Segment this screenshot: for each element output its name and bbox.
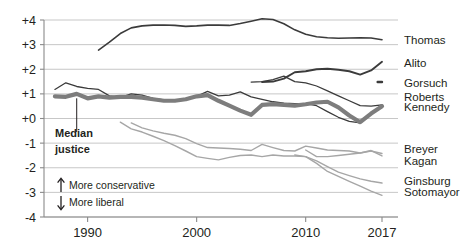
series-label-alito: Alito (404, 57, 426, 69)
y-tick-label: +0 (22, 112, 36, 126)
direction-legend: More conservative More liberal (58, 178, 155, 209)
y-tick-label: +1 (22, 87, 36, 101)
series-label-gorsuch: Gorsuch (404, 77, 447, 89)
y-tick-label: -4 (25, 211, 36, 225)
more-conservative-label: More conservative (69, 179, 155, 191)
median-justice-annotation: Median justice (54, 98, 93, 155)
y-tick-label: +2 (22, 63, 36, 77)
y-tick-label: -1 (25, 137, 36, 151)
y-tick-label: -3 (25, 186, 36, 200)
y-tick-label: +3 (22, 38, 36, 52)
y-tick-label: +4 (22, 14, 36, 28)
justices-ideology-chart: +4+3+2+1+0-1-2-3-4 1990200020102017 Thom… (0, 0, 465, 251)
x-tick-label: 1990 (73, 225, 102, 240)
series-label-sotomayor: Sotomayor (404, 186, 460, 198)
axes (40, 20, 398, 222)
series-line-ginsburg (120, 122, 382, 183)
series-labels: ThomasAlitoGorsuchRobertsKennedyBreyerKa… (404, 34, 460, 198)
median-annotation-line1: Median (55, 127, 93, 139)
more-liberal-label: More liberal (69, 196, 124, 208)
up-arrow-icon (58, 178, 65, 192)
series-label-thomas: Thomas (404, 34, 446, 46)
series-line-sotomayor (295, 155, 382, 195)
y-tick-label: -2 (25, 161, 36, 175)
median-annotation-line2: justice (54, 143, 90, 155)
x-axis-tick-labels: 1990200020102017 (73, 225, 396, 240)
series-line-median-justice (55, 94, 382, 122)
series-line-alito (262, 62, 382, 82)
series-line-thomas (99, 19, 382, 50)
x-tick-label: 2017 (368, 225, 397, 240)
series-line-breyer (131, 123, 382, 154)
data-series (55, 19, 382, 196)
series-label-breyer: Breyer (404, 143, 438, 155)
series-label-ginsburg: Ginsburg (404, 175, 451, 187)
y-axis-tick-labels: +4+3+2+1+0-1-2-3-4 (22, 14, 36, 225)
x-tick-label: 2000 (182, 225, 211, 240)
x-tick-label: 2010 (291, 225, 320, 240)
series-label-kagan: Kagan (404, 155, 437, 167)
chart-svg: +4+3+2+1+0-1-2-3-4 1990200020102017 Thom… (0, 0, 465, 251)
series-label-kennedy: Kennedy (404, 101, 450, 113)
down-arrow-icon (58, 196, 65, 210)
